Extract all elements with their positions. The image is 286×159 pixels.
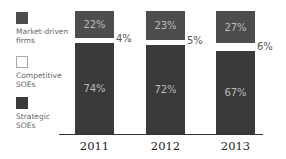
legend-swatch	[16, 56, 28, 68]
callout-competitive-2013: 6%	[257, 41, 273, 52]
legend-label: SOEs	[16, 80, 35, 89]
segment-market-driven: 22%	[75, 11, 114, 38]
bar-2011: 22% 74%	[75, 11, 114, 134]
segment-strategic: 67%	[216, 51, 255, 134]
legend-label: firms	[16, 36, 35, 45]
bar-2012: 23% 72%	[146, 11, 185, 134]
legend-item-competitive-soes: CompetitiveSOEs	[16, 56, 76, 89]
x-axis-line	[59, 134, 263, 135]
segment-strategic: 72%	[146, 45, 185, 134]
legend-label: Market-driven	[16, 27, 68, 36]
x-tick-label: 2013	[216, 139, 255, 153]
bar-2013: 27% 67%	[216, 11, 255, 134]
legend-label: Strategic	[16, 112, 50, 121]
x-tick-label: 2011	[75, 139, 114, 153]
segment-strategic: 74%	[75, 43, 114, 134]
callout-competitive-2012: 5%	[187, 35, 203, 46]
legend-label: SOEs	[16, 121, 35, 130]
legend-label: Competitive	[16, 71, 62, 80]
legend-swatch	[16, 12, 28, 24]
legend-swatch	[16, 97, 28, 109]
legend-item-market-driven: Market-drivenfirms	[16, 12, 76, 45]
callout-competitive-2011: 4%	[116, 33, 132, 44]
legend-item-strategic-soes: StrategicSOEs	[16, 97, 76, 130]
segment-market-driven: 23%	[146, 11, 185, 40]
x-tick-label: 2012	[146, 139, 185, 153]
segment-competitive	[216, 43, 255, 51]
segment-market-driven: 27%	[216, 11, 255, 43]
